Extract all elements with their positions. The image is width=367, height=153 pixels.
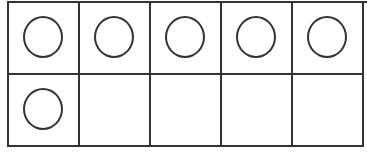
circle-counter-icon — [307, 16, 347, 58]
circle-counter-icon — [236, 16, 276, 58]
ten-frame-cell — [9, 3, 80, 75]
ten-frame-cell — [293, 3, 364, 75]
circle-counter-icon — [23, 16, 63, 58]
ten-frame-cell — [151, 3, 222, 75]
ten-frame-cell — [151, 75, 222, 147]
ten-frame-cell — [293, 75, 364, 147]
circle-counter-icon — [94, 16, 134, 58]
ten-frame-cell — [222, 75, 293, 147]
ten-frame-grid — [7, 1, 367, 147]
ten-frame-cell — [222, 3, 293, 75]
ten-frame-cell — [80, 75, 151, 147]
ten-frame — [7, 1, 367, 145]
ten-frame-cell — [9, 75, 80, 147]
ten-frame-cell — [80, 3, 151, 75]
circle-counter-icon — [23, 88, 63, 130]
circle-counter-icon — [165, 16, 205, 58]
